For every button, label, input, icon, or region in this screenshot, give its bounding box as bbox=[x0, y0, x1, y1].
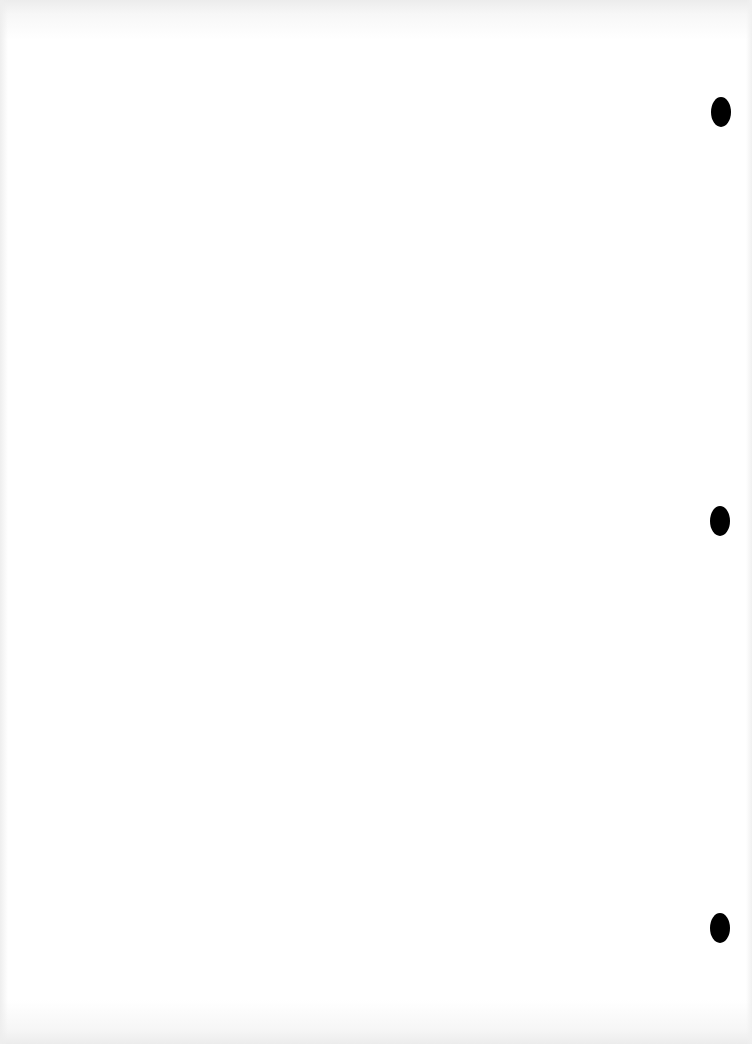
punch-hole-middle bbox=[710, 506, 730, 536]
punch-hole-bottom bbox=[710, 913, 730, 943]
scanned-page bbox=[0, 0, 752, 1044]
punch-hole-top bbox=[711, 97, 731, 127]
